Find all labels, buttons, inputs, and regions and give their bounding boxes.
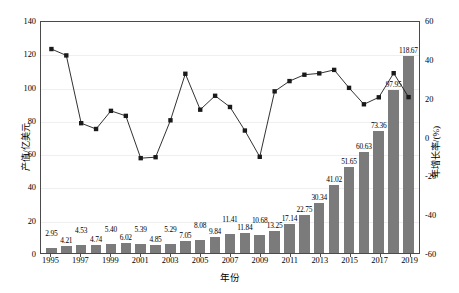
x-axis-tick-mark (170, 254, 171, 257)
bar-rect (210, 237, 220, 253)
x-axis-tick-label: 2011 (282, 256, 298, 265)
bar-series: 2.954.214.534.745.406.025.394.855.297.05… (41, 22, 419, 253)
chart-figure: 产值/亿美元 年增长率/(%) 年份 020406080100120140 -6… (0, 0, 459, 293)
bar-item: 11.41 (223, 22, 238, 253)
bar-value-label: 10.68 (252, 216, 268, 225)
bar-value-label: 13.25 (267, 221, 283, 230)
x-axis-tick-label: 1997 (72, 256, 89, 265)
bar-rect (254, 235, 264, 253)
bar-item: 5.29 (163, 22, 178, 253)
y-axis-left-tick-label: 40 (28, 183, 36, 192)
x-axis-tick-mark (290, 254, 291, 257)
y-axis-right-tick-label: 60 (425, 17, 433, 26)
bar-rect (76, 245, 86, 253)
x-axis-tick-mark (110, 254, 111, 257)
bar-rect (329, 185, 339, 253)
bar-rect (106, 244, 116, 253)
bar-value-label: 11.41 (222, 215, 237, 224)
bar-item: 4.21 (59, 22, 74, 253)
bar-item: 11.84 (237, 22, 252, 253)
y-axis-right-tick-label: -60 (425, 250, 436, 259)
bar-item: 5.39 (133, 22, 148, 253)
x-axis-tick-label: 2013 (311, 256, 328, 265)
x-axis-tick-label: 2015 (341, 256, 358, 265)
bar-rect (91, 245, 101, 253)
bar-value-label: 17.14 (282, 214, 298, 223)
x-axis-tick-label: 2003 (162, 256, 179, 265)
bar-item: 60.63 (356, 22, 371, 253)
bar-item: 4.74 (89, 22, 104, 253)
bar-item: 8.08 (193, 22, 208, 253)
bar-item: 13.25 (267, 22, 282, 253)
bar-value-label: 8.08 (194, 221, 206, 230)
y-axis-right-tick-label: 20 (425, 94, 433, 103)
y-axis-right-tick-label: 40 (425, 55, 433, 64)
bar-rect (359, 152, 369, 253)
x-axis-tick-mark (410, 254, 411, 257)
bar-rect (225, 234, 235, 253)
bar-value-label: 97.95 (386, 80, 402, 89)
x-axis-tick-mark (350, 254, 351, 257)
bar-value-label: 4.53 (75, 226, 87, 235)
x-axis-tick-mark (50, 254, 51, 257)
bar-value-label: 4.85 (149, 235, 161, 244)
bar-rect (373, 131, 383, 253)
y-axis-left-tick-label: 80 (28, 116, 36, 125)
bar-rect (284, 224, 294, 253)
bar-rect (46, 248, 56, 253)
bar-rect (121, 243, 131, 253)
bar-value-label: 51.65 (341, 157, 357, 166)
y-axis-left-tick-label: 20 (28, 216, 36, 225)
x-axis-tick-mark (380, 254, 381, 257)
x-axis-tick-label: 1999 (102, 256, 119, 265)
bar-item: 17.14 (282, 22, 297, 253)
bar-value-label: 9.84 (209, 227, 221, 236)
bar-value-label: 41.02 (326, 175, 342, 184)
y-axis-left-tick-label: 100 (23, 83, 36, 92)
bar-rect (135, 244, 145, 253)
bar-value-label: 5.29 (164, 225, 176, 234)
bar-item: 51.65 (342, 22, 357, 253)
y-axis-left-title: 产值/亿美元 (18, 123, 32, 171)
plot-area: 2.954.214.534.745.406.025.394.855.297.05… (40, 21, 420, 254)
x-axis-tick-label: 2001 (132, 256, 149, 265)
y-axis-left-tick-label: 140 (23, 17, 36, 26)
x-axis-tick-label: 1995 (42, 256, 59, 265)
x-axis-tick-mark (80, 254, 81, 257)
x-axis-tick-label: 2017 (371, 256, 388, 265)
bar-item: 10.68 (252, 22, 267, 253)
x-axis-tick-label: 2019 (401, 256, 418, 265)
bar-value-label: 30.34 (311, 193, 327, 202)
bar-item: 5.40 (104, 22, 119, 253)
y-axis-left-tick-label: 60 (28, 150, 36, 159)
bar-rect (388, 90, 398, 253)
bar-item: 73.36 (371, 22, 386, 253)
bar-rect (403, 56, 413, 254)
bar-rect (165, 244, 175, 253)
x-axis-tick-mark (230, 254, 231, 257)
y-axis-right-tick-label: 0 (425, 133, 429, 142)
bar-rect (240, 233, 250, 253)
bar-value-label: 6.02 (120, 233, 132, 242)
bar-value-label: 2.95 (45, 229, 57, 238)
bar-rect (299, 215, 309, 253)
bar-value-label: 118.67 (399, 46, 418, 55)
bar-item: 118.67 (401, 22, 416, 253)
bar-item: 9.84 (208, 22, 223, 253)
bar-rect (269, 231, 279, 253)
bar-item: 7.05 (178, 22, 193, 253)
y-axis-right-tick-label: -20 (425, 172, 436, 181)
bar-value-label: 5.39 (135, 225, 147, 234)
y-axis-right-tick-label: -40 (425, 211, 436, 220)
bar-value-label: 4.74 (90, 235, 102, 244)
bar-item: 97.95 (386, 22, 401, 253)
bar-item: 2.95 (44, 22, 59, 253)
bar-item: 30.34 (312, 22, 327, 253)
bar-rect (195, 240, 205, 253)
y-axis-left-tick-label: 120 (23, 50, 36, 59)
bar-value-label: 5.40 (105, 225, 117, 234)
bar-value-label: 60.63 (356, 142, 372, 151)
bar-value-label: 22.75 (297, 205, 313, 214)
bar-item: 6.02 (118, 22, 133, 253)
x-axis-title: 年份 (0, 270, 459, 284)
